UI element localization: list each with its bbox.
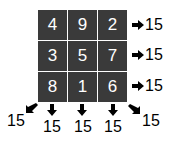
magic-square-grid: 4 9 2 3 5 7 8 1 6 [38,10,128,102]
column-1-sum: 15 [43,119,61,135]
row-3-sum: 15 [145,78,163,94]
arrow-right-icon [132,80,144,92]
arrow-down-icon [107,104,119,116]
column-3-sum: 15 [104,119,122,135]
arrow-down-left-icon [26,103,38,115]
anti-diagonal-sum: 15 [7,113,25,129]
row-2-sum: 15 [145,47,163,63]
cell-r1c3: 2 [98,10,127,40]
cell-r2c1: 3 [38,41,67,71]
column-2-sum: 15 [74,119,92,135]
cell-r1c2: 9 [68,10,97,40]
cell-r1c1: 4 [38,10,67,40]
arrow-right-icon [132,19,144,31]
main-diagonal-sum: 15 [142,113,160,129]
cell-r3c3: 6 [98,72,127,102]
arrow-down-icon [46,104,58,116]
arrow-right-icon [132,49,144,61]
cell-r2c2: 5 [68,41,97,71]
cell-r2c3: 7 [98,41,127,71]
row-1-sum: 15 [145,17,163,33]
arrow-down-right-icon [128,104,140,116]
arrow-down-icon [76,104,88,116]
cell-r3c1: 8 [38,72,67,102]
cell-r3c2: 1 [68,72,97,102]
